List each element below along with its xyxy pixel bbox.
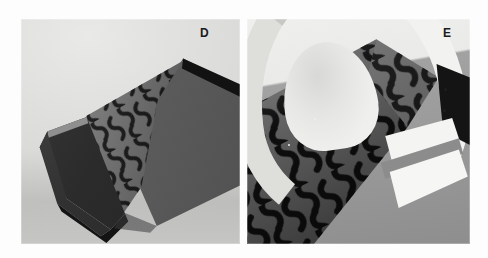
figure-panel-d <box>21 19 240 244</box>
panel-e-highlight-dot <box>314 118 316 120</box>
panel-e-highlight-dot <box>296 132 298 134</box>
panel-label-d: D <box>200 27 209 39</box>
figure-panel-e <box>247 19 470 244</box>
panel-d-artwork <box>21 19 240 244</box>
figure-container: D E <box>0 0 488 258</box>
panel-label-e: E <box>443 27 452 39</box>
panel-e-artwork <box>247 19 470 244</box>
